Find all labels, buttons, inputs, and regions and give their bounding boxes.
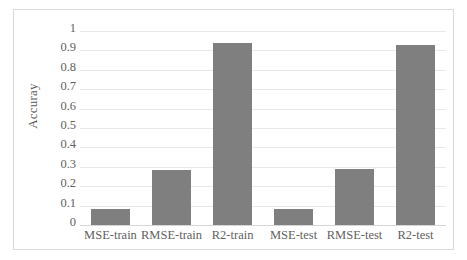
bar xyxy=(274,209,313,225)
bar xyxy=(91,209,130,225)
chart-figure: Accuray 10.90.80.70.60.50.40.30.20.10 MS… xyxy=(13,9,454,250)
x-axis-category-labels: MSE-trainRMSE-trainR2-trainMSE-testRMSE-… xyxy=(80,228,446,242)
x-axis-category-label: RMSE-train xyxy=(141,228,202,242)
x-axis-category-label: MSE-train xyxy=(80,228,141,242)
y-axis-tick-label: 0.1 xyxy=(40,197,76,209)
bar-slot xyxy=(80,31,141,225)
bar xyxy=(396,45,435,225)
bar-slot xyxy=(324,31,385,225)
y-axis-tick-label: 0 xyxy=(40,216,76,228)
y-axis-tick-label: 0.5 xyxy=(40,119,76,131)
gridline xyxy=(80,225,446,226)
bar-slot xyxy=(385,31,446,225)
bar xyxy=(335,169,374,225)
bar xyxy=(152,170,191,225)
bar-slot xyxy=(263,31,324,225)
y-axis-tick-label: 0.9 xyxy=(40,41,76,53)
y-axis-tick-label: 0.4 xyxy=(40,138,76,150)
bar xyxy=(213,43,252,225)
bar-slot xyxy=(202,31,263,225)
y-axis-tick-labels: 10.90.80.70.60.50.40.30.20.10 xyxy=(40,22,76,216)
x-axis-category-label: MSE-test xyxy=(263,228,324,242)
y-axis-tick-label: 0.2 xyxy=(40,177,76,189)
x-axis-category-label: R2-test xyxy=(385,228,446,242)
y-axis-tick-label: 0.3 xyxy=(40,158,76,170)
y-axis-tick-label: 0.7 xyxy=(40,80,76,92)
x-axis-category-label: RMSE-test xyxy=(324,228,385,242)
y-axis-title: Accuray xyxy=(25,51,41,161)
x-axis-category-label: R2-train xyxy=(202,228,263,242)
plot-area xyxy=(80,31,446,225)
y-axis-tick-label: 1 xyxy=(40,22,76,34)
y-axis-tick-label: 0.6 xyxy=(40,100,76,112)
bar-slot xyxy=(141,31,202,225)
bar-series xyxy=(80,31,446,225)
y-axis-tick-label: 0.8 xyxy=(40,61,76,73)
